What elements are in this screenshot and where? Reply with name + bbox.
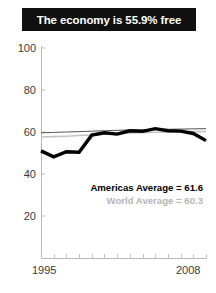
economic-freedom-chart: The economy is 55.9% free 10080604020 19… (0, 0, 216, 293)
legend-americas-average: Americas Average = 61.6 (0, 181, 203, 194)
series-line (41, 129, 206, 157)
chart-legend: Americas Average = 61.6 World Average = … (0, 181, 203, 207)
series-lines (0, 0, 216, 293)
legend-world-average: World Average = 60.3 (0, 194, 203, 207)
